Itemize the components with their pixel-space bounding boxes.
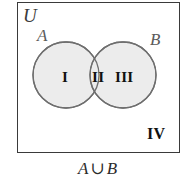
venn-diagram-figure: U A B I II III IV A∪B (0, 0, 195, 186)
set-a-label: A (37, 27, 47, 44)
region-label-iv: IV (147, 126, 165, 142)
caption-set-b: B (107, 159, 117, 178)
union-operator-icon: ∪ (88, 159, 106, 178)
figure-caption: A∪B (0, 158, 195, 179)
region-label-ii: II (92, 70, 104, 85)
caption-set-a: A (78, 159, 88, 178)
set-b-label: B (150, 31, 160, 48)
region-label-iii: III (115, 70, 133, 85)
universal-set-label: U (23, 6, 37, 25)
region-label-i: I (62, 70, 68, 85)
